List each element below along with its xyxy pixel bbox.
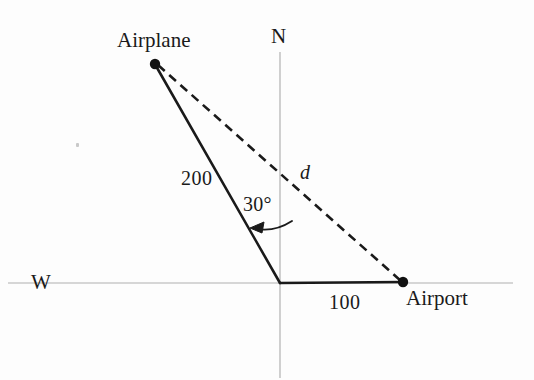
label-airport: Airport <box>406 288 468 309</box>
label-side-200: 200 <box>181 168 213 188</box>
label-angle-30: 30° <box>243 194 272 214</box>
label-distance-d: d <box>300 162 310 182</box>
label-side-100: 100 <box>329 292 361 312</box>
airplane-point-dot <box>150 59 160 69</box>
label-north-axis: N <box>271 26 286 47</box>
scan-artifact-speck <box>76 143 79 147</box>
label-west-axis: W <box>31 272 51 293</box>
segment-origin-to-airport <box>280 282 402 283</box>
triangle-diagram <box>0 0 534 380</box>
segment-airplane-to-origin <box>156 66 280 283</box>
figure-container: Airplane N W Airport 200 100 30° d <box>0 0 534 380</box>
angle-arrowhead-icon <box>250 222 264 233</box>
label-airplane: Airplane <box>117 30 190 51</box>
